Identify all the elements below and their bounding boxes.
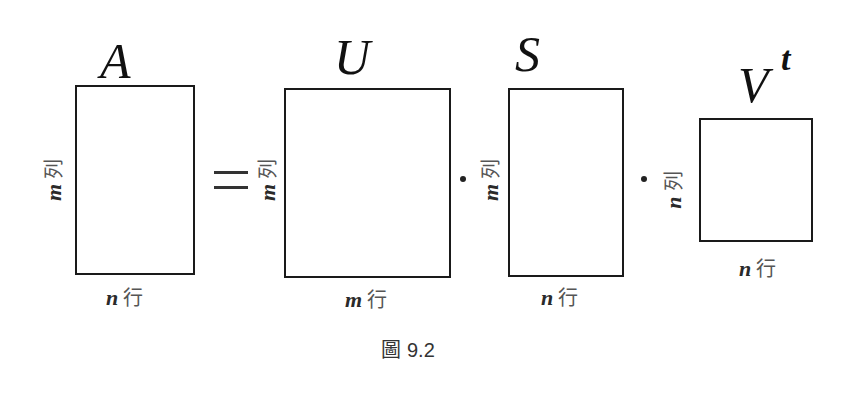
matrix-vt-row-unit: 列	[662, 171, 686, 191]
figure-caption-number: 9.2	[407, 339, 435, 361]
matrix-s-row-unit: 列	[479, 159, 503, 179]
equals-bar-bottom	[214, 186, 248, 189]
matrix-a-col-unit: 行	[123, 286, 143, 310]
matrix-u-col-unit: 行	[367, 288, 387, 312]
matrix-s-name: S	[515, 26, 540, 82]
matrix-a-col-label: n行	[106, 287, 143, 309]
matrix-a-col-var: n	[106, 285, 118, 310]
matrix-u-name: U	[334, 29, 370, 85]
matrix-vt-row-var: n	[661, 196, 686, 208]
matrix-vt-col-var: n	[739, 256, 751, 281]
matrix-s-row-var: m	[478, 184, 503, 201]
matrix-u-box	[284, 88, 451, 278]
matrix-s-title: S	[515, 29, 540, 79]
matrix-vt-sup: t	[781, 40, 790, 77]
matrix-a-name: A	[100, 33, 131, 89]
multiply-dot-2	[641, 176, 647, 182]
matrix-a-row-label: m列	[43, 145, 67, 215]
matrix-u-row-unit: 列	[256, 159, 280, 179]
matrix-vt-col-unit: 行	[756, 257, 776, 281]
matrix-a-box	[75, 85, 195, 275]
matrix-s-col-var: n	[541, 285, 553, 310]
matrix-a-title: A	[100, 36, 131, 86]
figure-caption-prefix: 圖	[381, 338, 401, 362]
matrix-vt-box	[699, 118, 813, 242]
matrix-s-row-label: m列	[480, 145, 504, 215]
figure-caption: 圖9.2	[381, 340, 435, 360]
matrix-u-title: U	[334, 32, 370, 82]
matrix-u-col-var: m	[345, 287, 362, 312]
equals-bar-top	[214, 171, 248, 174]
matrix-u-col-label: m行	[345, 289, 387, 311]
matrix-vt-col-label: n行	[739, 258, 776, 280]
matrix-vt-row-label: n列	[663, 155, 687, 225]
matrix-vt-name: V	[738, 57, 769, 113]
matrix-a-row-var: m	[41, 184, 66, 201]
matrix-s-col-label: n行	[541, 287, 578, 309]
matrix-vt-title: V	[738, 60, 769, 110]
matrix-u-row-var: m	[255, 184, 280, 201]
matrix-u-row-label: m列	[257, 145, 281, 215]
matrix-vt-superscript: t	[781, 42, 790, 76]
multiply-dot-1	[460, 176, 466, 182]
matrix-s-col-unit: 行	[558, 286, 578, 310]
matrix-s-box	[508, 88, 624, 277]
matrix-a-row-unit: 列	[42, 159, 66, 179]
